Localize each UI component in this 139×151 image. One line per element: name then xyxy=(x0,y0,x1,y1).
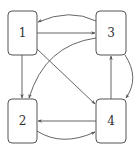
edge-2-to-4 xyxy=(37,131,95,139)
node-3-label: 3 xyxy=(107,26,115,40)
edge-1-to-4 xyxy=(37,49,95,104)
node-1[interactable]: 1 xyxy=(8,11,37,55)
node-2[interactable]: 2 xyxy=(8,99,37,143)
edge-3-to-4 xyxy=(125,55,133,98)
node-2-label: 2 xyxy=(19,114,27,128)
node-4-label: 4 xyxy=(107,114,115,128)
edge-3-to-1 xyxy=(38,15,96,22)
node-3[interactable]: 3 xyxy=(96,11,126,55)
node-4[interactable]: 4 xyxy=(96,99,126,143)
edge-3-to-2 xyxy=(29,38,96,98)
node-1-label: 1 xyxy=(19,26,27,40)
graph-diagram: 1 3 2 4 xyxy=(0,0,139,151)
